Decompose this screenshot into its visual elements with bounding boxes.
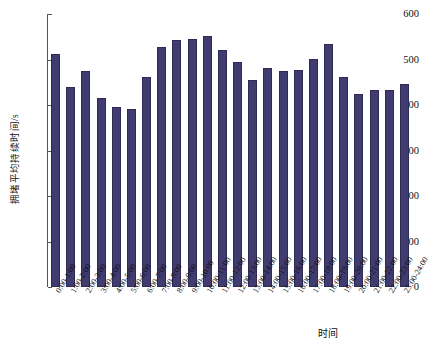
bar <box>218 50 227 287</box>
bar-series <box>48 14 412 287</box>
bar <box>233 62 242 287</box>
bar <box>157 47 166 287</box>
bar <box>172 40 181 287</box>
y-axis-tick <box>48 287 52 288</box>
bar <box>324 44 333 287</box>
bar <box>127 109 136 287</box>
bar <box>263 68 272 287</box>
plot-area <box>48 14 412 287</box>
bar <box>66 87 75 287</box>
bar <box>51 54 60 287</box>
bar <box>112 107 121 287</box>
bar <box>294 70 303 287</box>
y-axis-title: 拥堵平均持续时间/s <box>7 89 21 229</box>
bar <box>188 39 197 287</box>
bar <box>203 36 212 287</box>
x-axis-title-text: 时间 <box>318 328 338 339</box>
bar <box>142 77 151 287</box>
bar <box>81 71 90 287</box>
x-axis-title: 时间 <box>0 325 419 340</box>
bar <box>97 98 106 287</box>
bar <box>309 59 318 287</box>
